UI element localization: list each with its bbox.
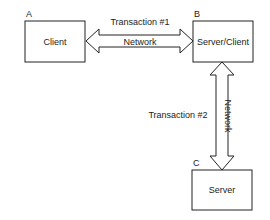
node-a: A Client: [25, 9, 85, 62]
transaction-2-label: Transaction #2: [148, 110, 207, 120]
node-b-label: Server/Client: [197, 37, 250, 47]
network-diagram: A Client B Server/Client C Server Transa…: [0, 0, 270, 220]
node-c-letter: C: [193, 158, 200, 168]
node-a-letter: A: [26, 9, 32, 19]
node-b: B Server/Client: [193, 9, 253, 62]
node-c-label: Server: [209, 185, 236, 195]
network-2-label: Network: [223, 99, 233, 133]
transaction-1-label: Transaction #1: [110, 17, 169, 27]
network-1-label: Network: [123, 37, 157, 47]
node-a-label: Client: [43, 37, 67, 47]
node-b-letter: B: [194, 9, 200, 19]
